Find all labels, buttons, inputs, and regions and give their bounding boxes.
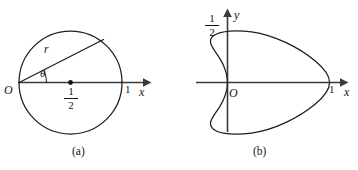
panel-b-origin-label: O bbox=[229, 87, 238, 99]
panel-a-caption: (a) bbox=[72, 146, 85, 158]
panel-a-half-fraction-label: 1 2 bbox=[64, 86, 78, 111]
panel-b-half-numerator: 1 bbox=[205, 13, 219, 25]
panel-b-caption: (b) bbox=[253, 146, 266, 158]
panel-b-x-axis-label: x bbox=[344, 86, 349, 98]
panel-b-y-axis-arrowhead bbox=[223, 9, 232, 18]
panel-b-half-denominator: 2 bbox=[205, 27, 219, 39]
panel-a-half-numerator: 1 bbox=[64, 86, 78, 98]
panel-a-half-denominator: 2 bbox=[64, 100, 78, 112]
panel-a-group bbox=[18, 31, 152, 134]
panel-a-radius-line bbox=[19, 40, 103, 83]
panel-b-y-axis-label: y bbox=[234, 9, 239, 21]
panel-a-radius-label: r bbox=[44, 44, 48, 56]
figure-container: O r θ 1 x 1 2 O y 1 x 1 2 (a) (b) bbox=[0, 0, 358, 170]
panel-a-x-axis-label: x bbox=[139, 86, 144, 98]
panel-a-theta-label: θ bbox=[40, 68, 45, 79]
figure-svg bbox=[0, 0, 358, 170]
panel-b-half-fraction-label: 1 2 bbox=[205, 13, 219, 38]
panel-a-origin-label: O bbox=[4, 84, 13, 96]
panel-a-x-tick-one-label: 1 bbox=[125, 84, 131, 95]
panel-b-x-tick-one-label: 1 bbox=[329, 84, 335, 95]
